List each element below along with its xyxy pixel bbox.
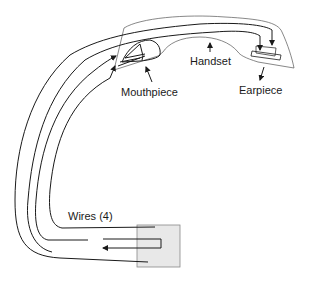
mouthpiece-label: Mouthpiece [121,87,178,98]
mouthpiece-pointer-arrow [146,67,152,82]
wires-label: Wires (4) [68,211,113,222]
earpiece-label: Earpiece [239,85,282,96]
diagram-graphic [0,0,309,289]
earpiece-plate [251,51,281,60]
handset-label: Handset [190,56,231,67]
handset-wiring-diagram: Handset Mouthpiece Earpiece Wires (4) [0,0,309,289]
junction-box [137,225,180,267]
earpiece-pointer-arrow [260,67,264,80]
